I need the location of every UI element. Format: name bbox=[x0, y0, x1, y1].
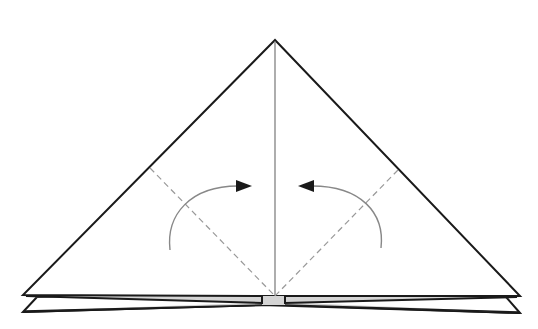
center-notch bbox=[263, 296, 284, 305]
origami-diagram bbox=[0, 0, 538, 329]
main-triangle bbox=[23, 40, 520, 296]
diagram-canvas bbox=[0, 0, 538, 329]
